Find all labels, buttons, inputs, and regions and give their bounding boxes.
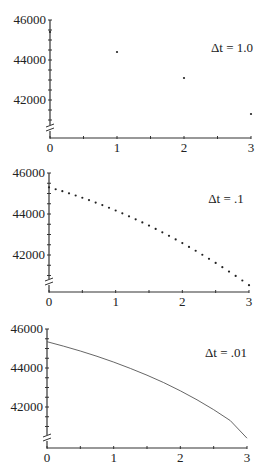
chart-panel-1: 4600044000420000123Δt = 1.0 bbox=[14, 12, 255, 155]
y-tick-label: 46000 bbox=[14, 12, 47, 27]
data-point bbox=[55, 188, 57, 190]
delta-t-label: Δt = .01 bbox=[205, 345, 247, 360]
data-point bbox=[75, 194, 77, 196]
data-point bbox=[68, 192, 70, 194]
x-tick-label: 3 bbox=[244, 450, 251, 465]
delta-t-label: Δt = 1.0 bbox=[211, 40, 253, 55]
data-point bbox=[250, 113, 252, 115]
data-point bbox=[49, 31, 51, 33]
data-point bbox=[48, 186, 50, 188]
data-point bbox=[141, 221, 143, 223]
charts-canvas: 4600044000420000123Δt = 1.04600044000420… bbox=[0, 0, 262, 473]
data-point bbox=[155, 228, 157, 230]
x-tick-label: 0 bbox=[46, 294, 53, 309]
x-tick-label: 0 bbox=[44, 450, 51, 465]
x-tick-label: 2 bbox=[179, 294, 186, 309]
data-point bbox=[128, 215, 130, 217]
data-point bbox=[135, 218, 137, 220]
x-tick-label: 2 bbox=[181, 140, 188, 155]
data-point bbox=[88, 199, 90, 201]
data-point bbox=[101, 204, 103, 206]
data-point bbox=[116, 51, 118, 53]
data-point bbox=[148, 225, 150, 227]
y-tick-label: 42000 bbox=[14, 92, 47, 107]
data-point bbox=[183, 77, 185, 79]
data-point bbox=[221, 266, 223, 268]
data-point bbox=[195, 250, 197, 252]
data-point bbox=[175, 238, 177, 240]
data-point bbox=[235, 275, 237, 277]
x-tick-label: 2 bbox=[177, 450, 184, 465]
x-tick-label: 3 bbox=[246, 294, 253, 309]
data-point bbox=[208, 258, 210, 260]
data-point bbox=[121, 212, 123, 214]
y-tick-label: 42000 bbox=[11, 399, 44, 414]
data-point bbox=[161, 231, 163, 233]
y-tick-label: 44000 bbox=[11, 360, 44, 375]
data-point bbox=[241, 279, 243, 281]
y-tick-label: 42000 bbox=[13, 247, 46, 262]
data-point bbox=[81, 197, 83, 199]
data-point bbox=[108, 207, 110, 209]
data-point bbox=[228, 270, 230, 272]
axis-break-icon bbox=[45, 278, 53, 285]
data-point bbox=[201, 254, 203, 256]
delta-t-label: Δt = .1 bbox=[208, 191, 244, 206]
chart-panel-2: 4600044000420000123Δt = .1 bbox=[13, 165, 253, 309]
y-tick-label: 46000 bbox=[11, 321, 44, 336]
x-tick-label: 3 bbox=[248, 140, 255, 155]
y-tick-label: 44000 bbox=[14, 52, 47, 67]
data-point bbox=[168, 235, 170, 237]
data-point bbox=[188, 246, 190, 248]
y-tick-label: 46000 bbox=[13, 165, 46, 180]
x-tick-label: 1 bbox=[114, 140, 121, 155]
x-tick-label: 0 bbox=[47, 140, 54, 155]
data-point bbox=[61, 190, 63, 192]
axis-break-icon bbox=[46, 124, 54, 131]
chart-panel-3: 4600044000420000123Δt = .01 bbox=[11, 321, 251, 465]
y-tick-label: 44000 bbox=[13, 206, 46, 221]
axis-break-icon bbox=[43, 434, 51, 441]
data-point bbox=[248, 284, 250, 286]
x-tick-label: 1 bbox=[110, 450, 117, 465]
data-point bbox=[95, 201, 97, 203]
x-tick-label: 1 bbox=[112, 294, 119, 309]
data-point bbox=[115, 209, 117, 211]
data-point bbox=[215, 262, 217, 264]
data-point bbox=[181, 242, 183, 244]
